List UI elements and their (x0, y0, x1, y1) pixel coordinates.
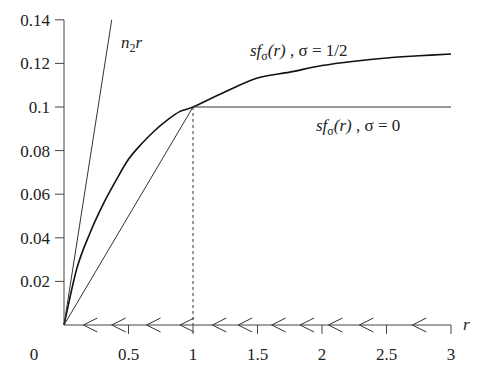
n2r-label: n2r (121, 33, 143, 55)
x-tick-label: 1 (189, 345, 198, 364)
y-tick-label: 0.1 (29, 98, 50, 117)
y-tick-label: 0.02 (20, 272, 50, 291)
y-tick-label: 0.06 (20, 185, 50, 204)
y-tick-label: 0.12 (20, 54, 50, 73)
y-tick-label: 0.14 (20, 11, 50, 30)
chart: 0.020.040.060.080.10.120.140.511.522.53 … (0, 0, 478, 374)
x-tick-label: 2 (318, 345, 327, 364)
origin-label: 0 (30, 345, 39, 364)
x-tick-label: 2.5 (376, 345, 397, 364)
series-group (64, 20, 451, 325)
curve-zero-label: sfσ(r) , σ = 0 (316, 116, 400, 138)
y-tick-label: 0.08 (20, 142, 50, 161)
curve-half-label: sfσ(r) , σ = 1/2 (250, 41, 348, 63)
y-tick-label: 0.04 (20, 229, 50, 248)
labels: 0 r n2r sfσ(r) , σ = 1/2 sfσ(r) , σ = 0 (30, 33, 470, 364)
series-line-1 (64, 107, 451, 325)
series-line-2 (64, 20, 112, 325)
x-tick-label: 3 (447, 345, 456, 364)
x-axis-label: r (463, 315, 470, 334)
x-tick-label: 1.5 (247, 345, 268, 364)
series-line-0 (64, 54, 451, 325)
x-tick-label: 0.5 (118, 345, 139, 364)
